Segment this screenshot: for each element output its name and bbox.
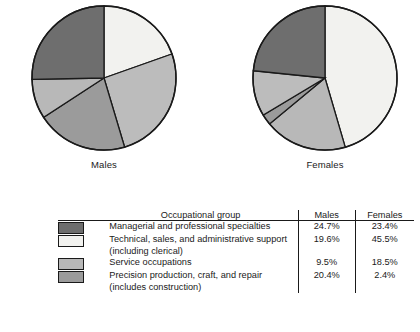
row-females-precision: 2.4% — [355, 270, 414, 293]
row-females-service: 18.5% — [355, 257, 414, 270]
header-males: Males — [298, 210, 355, 220]
table-row: Managerial and professional specialties … — [58, 221, 414, 235]
pie-females-slice-managerial — [253, 6, 325, 78]
legend-swatch-cell — [58, 270, 103, 293]
legend-swatch-technical — [58, 235, 84, 247]
row-females-managerial: 23.4% — [355, 221, 414, 235]
row-label-technical: Technical, sales, and administrative sup… — [103, 234, 298, 257]
legend-swatch-precision — [58, 271, 84, 283]
legend-swatch-service — [58, 258, 84, 270]
table-row: Precision production, craft, and repair … — [58, 270, 414, 293]
legend-swatch-managerial — [58, 222, 84, 234]
legend-swatch-cell — [58, 257, 103, 270]
pie-chart-males: Males — [24, 0, 184, 206]
table-row: Service occupations 9.5% 18.5% — [58, 257, 414, 270]
occupational-distribution-figure: Males Females — [0, 0, 420, 332]
pie-males-caption: Males — [24, 159, 184, 170]
pie-females-caption: Females — [245, 159, 405, 170]
table-row: Technical, sales, and administrative sup… — [58, 234, 414, 257]
row-label-managerial: Managerial and professional specialties — [103, 221, 298, 235]
table-header: Occupational group Males Females — [58, 210, 414, 221]
pie-males-slice-managerial — [32, 6, 104, 79]
row-label-precision: Precision production, craft, and repair … — [103, 270, 298, 293]
legend-swatch-cell — [58, 221, 103, 235]
legend-swatch-cell — [58, 234, 103, 257]
pie-chart-group: Males Females — [0, 0, 420, 206]
pie-males-svg — [26, 0, 182, 156]
row-label-service: Service occupations — [103, 257, 298, 270]
legend-data-table: Occupational group Males Females Manager — [58, 210, 414, 293]
row-males-technical: 19.6% — [298, 234, 355, 257]
pie-chart-females: Females — [245, 0, 405, 206]
occupation-table: Occupational group Males Females Manager — [58, 210, 414, 293]
header-swatch-spacer — [58, 210, 103, 220]
row-females-technical: 45.5% — [355, 234, 414, 257]
row-males-service: 9.5% — [298, 257, 355, 270]
header-occupational-group: Occupational group — [103, 210, 298, 220]
row-males-managerial: 24.7% — [298, 221, 355, 235]
table-body: Managerial and professional specialties … — [58, 221, 414, 294]
pie-females-svg — [247, 0, 403, 156]
header-females: Females — [355, 210, 414, 220]
table-header-row: Occupational group Males Females — [58, 210, 414, 220]
row-males-precision: 20.4% — [298, 270, 355, 293]
